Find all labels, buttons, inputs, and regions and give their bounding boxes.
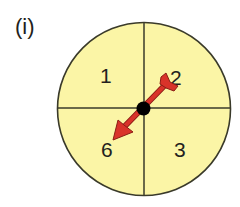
sector-label-3: 3: [174, 138, 186, 161]
sector-label-1: 1: [100, 64, 112, 87]
sector-label-6: 6: [101, 138, 113, 161]
pivot-dot: [137, 102, 151, 116]
spinner-diagram: 1 2 3 6: [0, 0, 240, 207]
